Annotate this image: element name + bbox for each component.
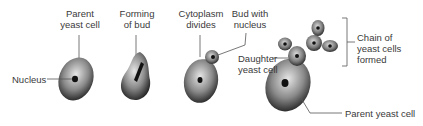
label-cytoplasm-divides: Cytoplasm divides bbox=[176, 8, 226, 30]
parent-yeast-cell bbox=[47, 35, 99, 105]
label-line: of bud bbox=[117, 19, 157, 30]
label-line: yeast cell bbox=[60, 19, 100, 30]
label-line: yeast cells bbox=[357, 43, 401, 54]
label-nucleus: Nucleus bbox=[12, 74, 46, 85]
label-line: formed bbox=[357, 54, 401, 65]
label-daughter-yeast-cell: Daughter yeast cell bbox=[238, 53, 278, 75]
label-parent-yeast-cell-final: Parent yeast cell bbox=[345, 108, 415, 119]
label-line: divides bbox=[176, 19, 226, 30]
cytoplasm-divides-cell bbox=[180, 33, 246, 106]
label-line: Daughter bbox=[238, 53, 278, 64]
label-bud-with-nucleus: Bud with nucleus bbox=[228, 8, 272, 30]
label-line: nucleus bbox=[228, 19, 272, 30]
forming-bud-cell bbox=[121, 35, 150, 100]
label-forming-bud: Forming of bud bbox=[117, 8, 157, 30]
label-line: Cytoplasm bbox=[176, 8, 226, 19]
label-line: yeast cell bbox=[238, 64, 278, 75]
label-line: Chain of bbox=[357, 32, 401, 43]
label-parent-yeast-cell: Parent yeast cell bbox=[60, 8, 100, 30]
label-line: Bud with bbox=[228, 8, 272, 19]
label-line: Forming bbox=[117, 8, 157, 19]
label-chain-of-yeast-cells: Chain of yeast cells formed bbox=[357, 32, 401, 65]
label-line: Parent bbox=[60, 8, 100, 19]
